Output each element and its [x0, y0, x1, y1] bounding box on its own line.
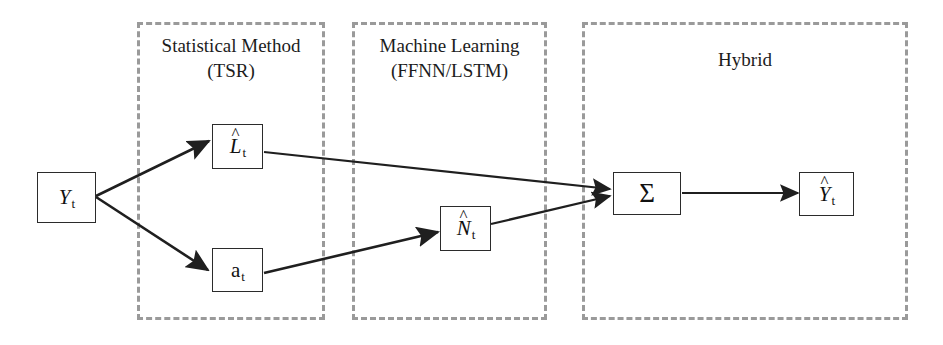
node-linear-label: ^Lt — [230, 136, 245, 157]
node-sum-base: Σ — [639, 178, 655, 208]
node-nonlinear-subscript: t — [472, 227, 476, 242]
node-residual-at[interactable]: at — [212, 248, 263, 292]
node-residual-subscript: t — [241, 269, 245, 284]
node-linear-hat: ^ — [232, 125, 240, 142]
node-output-label: ^Yt — [819, 184, 834, 205]
edge-nonlinear-to-sum — [491, 196, 610, 224]
node-nonlinear-label: ^Nt — [457, 218, 475, 239]
node-input-yt[interactable]: Yt — [37, 172, 96, 223]
edge-input-to-linear — [96, 141, 209, 196]
edge-input-to-residual — [96, 197, 208, 270]
edge-residual-to-nonlinear — [264, 232, 438, 273]
node-linear-subscript: t — [243, 145, 247, 160]
node-output-subscript: t — [832, 193, 836, 208]
node-output-yhat-t[interactable]: ^Yt — [799, 172, 854, 216]
edge-linear-to-sum — [264, 152, 610, 189]
node-input-subscript: t — [72, 196, 76, 211]
node-sum-sigma[interactable]: Σ — [613, 172, 681, 215]
node-sum-label: Σ — [639, 180, 655, 207]
node-residual-base: a — [231, 258, 240, 282]
node-nonlinear-hat: ^ — [460, 207, 468, 224]
node-linear-lhat-t[interactable]: ^Lt — [212, 124, 263, 169]
node-input-label: Yt — [59, 187, 74, 208]
node-output-hat: ^ — [821, 173, 829, 190]
node-nonlinear-nhat-t[interactable]: ^Nt — [440, 206, 491, 251]
diagram-canvas: Statistical Method (TSR) Machine Learnin… — [0, 0, 943, 345]
node-residual-label: at — [231, 260, 244, 281]
node-input-base: Y — [59, 185, 71, 209]
